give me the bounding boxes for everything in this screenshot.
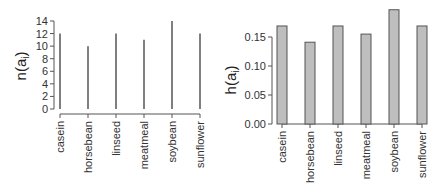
chart-figure: 02468101214 caseinhorsebeanlinseedmeatme… bbox=[0, 0, 443, 189]
x-tick-label: meatmeal bbox=[360, 131, 372, 179]
y-tick-label: 12 bbox=[36, 28, 48, 40]
x-tick-label: horsebean bbox=[82, 121, 94, 173]
y-tick-label: 4 bbox=[42, 78, 48, 90]
right-x-axis: caseinhorsebeanlinseedmeatmealsoybeansun… bbox=[276, 124, 428, 183]
x-tick-label: linseed bbox=[332, 131, 344, 166]
y-tick-label: 10 bbox=[36, 40, 48, 52]
right-chart-relative-frequency: 0.000.050.100.15 caseinhorsebeanlinseedm… bbox=[222, 10, 428, 183]
y-tick-label: 6 bbox=[42, 65, 48, 77]
left-x-axis: caseinhorsebeanlinseedmeatmealsoybeansun… bbox=[54, 114, 206, 173]
x-tick-label: soybean bbox=[166, 121, 178, 163]
right-bars bbox=[277, 10, 427, 124]
y-tick-label: 2 bbox=[42, 90, 48, 102]
left-y-axis: 02468101214 bbox=[36, 15, 54, 115]
bar bbox=[277, 26, 287, 124]
x-tick-label: soybean bbox=[388, 131, 400, 173]
left-chart-count: 02468101214 caseinhorsebeanlinseedmeatme… bbox=[12, 15, 206, 173]
y-tick-label: 0 bbox=[42, 103, 48, 115]
bar bbox=[389, 10, 399, 124]
y-tick-label: 0.05 bbox=[245, 89, 266, 101]
bar bbox=[305, 42, 315, 124]
bar bbox=[333, 26, 343, 124]
x-tick-label: sunflower bbox=[194, 121, 206, 168]
right-y-axis-title: h(ai) bbox=[222, 66, 241, 95]
x-tick-label: linseed bbox=[110, 121, 122, 156]
left-y-axis-title: n(ai) bbox=[12, 52, 31, 81]
right-y-axis: 0.000.050.100.15 bbox=[245, 31, 272, 130]
x-tick-label: sunflower bbox=[416, 131, 428, 178]
y-tick-label: 8 bbox=[42, 53, 48, 65]
y-tick-label: 0.00 bbox=[245, 118, 266, 130]
x-tick-label: meatmeal bbox=[138, 121, 150, 169]
y-tick-label: 0.15 bbox=[245, 31, 266, 43]
x-tick-label: casein bbox=[54, 121, 66, 153]
x-tick-label: casein bbox=[276, 131, 288, 163]
x-tick-label: horsebean bbox=[304, 131, 316, 183]
bar bbox=[361, 34, 371, 124]
y-tick-label: 0.10 bbox=[245, 60, 266, 72]
bar bbox=[417, 26, 427, 124]
y-tick-label: 14 bbox=[36, 15, 48, 27]
left-spikes bbox=[60, 21, 200, 109]
